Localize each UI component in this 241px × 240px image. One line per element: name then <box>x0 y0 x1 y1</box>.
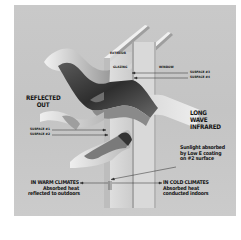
label-long-wave-infrared: LONG WAVE INFRARED <box>190 110 221 130</box>
label-exterior: EXTERIOR <box>110 52 126 55</box>
glazing-gap <box>110 52 132 208</box>
label-cold-climates: IN COLD CLIMATES Absorbed heat conducted… <box>163 180 209 197</box>
label-reflected-out: REFLECTED OUT <box>26 95 60 109</box>
label-sunlight-absorbed: Sunlight absorbed by Low E coating on #2… <box>180 145 225 162</box>
label-surface-2: SURFACE #2 <box>30 133 50 136</box>
label-surface-1: SURFACE #1 <box>30 128 50 131</box>
long-wave-line3: INFRARED <box>190 124 221 131</box>
label-window: WINDOW <box>159 66 174 69</box>
cold-line2: conducted indoors <box>163 191 209 197</box>
label-glazing: GLAZING <box>113 66 127 69</box>
label-warm-climates: IN WARM CLIMATES Absorbed heat reflected… <box>28 180 79 197</box>
reflected-out-line2: OUT <box>26 102 60 109</box>
warm-line2: reflected to outdoors <box>28 191 79 197</box>
sunlight-line3: on #2 surface <box>180 156 225 162</box>
label-surface-3: SURFACE #3 <box>190 71 210 74</box>
label-surface-4: SURFACE #4 <box>190 76 210 79</box>
